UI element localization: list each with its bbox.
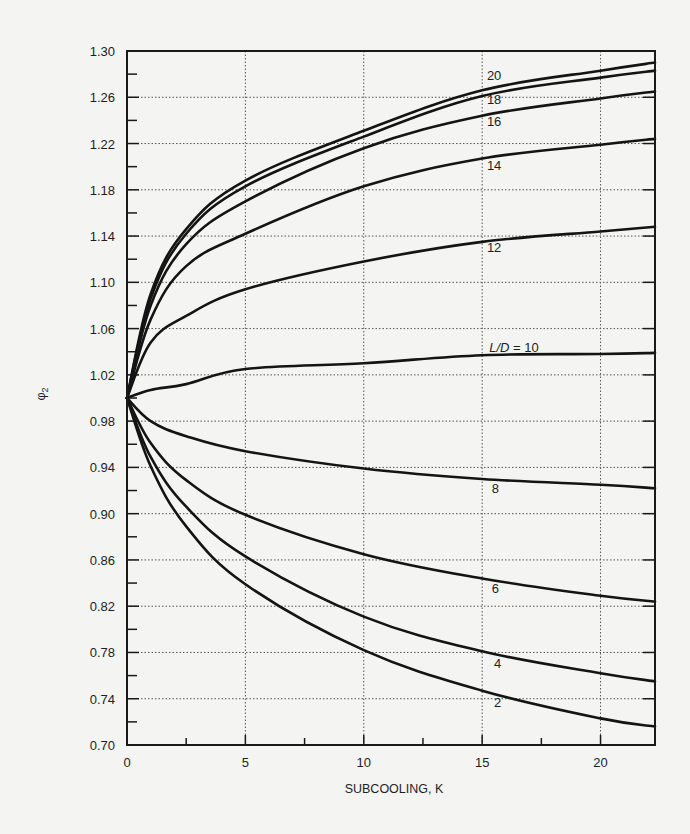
y-tick-label: 1.02 <box>90 368 115 383</box>
gridlines <box>127 51 655 745</box>
curve-ld-4 <box>127 398 655 681</box>
data-curves <box>127 63 655 727</box>
y-tick-label: 0.86 <box>90 553 115 568</box>
y-tick-label: 1.18 <box>90 183 115 198</box>
y-tick-label: 1.22 <box>90 137 115 152</box>
curve-ld-10 <box>127 353 655 398</box>
curve-label-14: 14 <box>487 158 501 173</box>
y-tick-label: 1.26 <box>90 90 115 105</box>
y-tick-label: 1.06 <box>90 322 115 337</box>
curve-labels: 2018161412L/D = 108642 <box>487 68 539 710</box>
y-tick-label: 0.70 <box>90 738 115 753</box>
curve-ld-8 <box>127 398 655 488</box>
x-tick-label: 5 <box>242 755 249 770</box>
curve-ld-20 <box>127 63 655 398</box>
curve-ld-16 <box>127 91 655 398</box>
plot-frame <box>127 51 655 745</box>
line-chart: 051015200.700.740.780.820.860.900.940.98… <box>0 0 690 834</box>
curve-label-20: 20 <box>487 68 501 83</box>
y-tick-label: 1.14 <box>90 229 115 244</box>
curve-ld-6 <box>127 398 655 602</box>
y-axis-title: φ2 <box>34 387 50 400</box>
y-tick-label: 1.30 <box>90 44 115 59</box>
curve-ld-2 <box>127 398 655 726</box>
curve-label-16: 16 <box>487 114 501 129</box>
y-tick-label: 0.74 <box>90 692 115 707</box>
x-tick-label: 0 <box>123 755 130 770</box>
y-tick-label: 0.94 <box>90 460 115 475</box>
curve-label-12: 12 <box>487 240 501 255</box>
curve-label-18: 18 <box>487 92 501 107</box>
x-axis-title: SUBCOOLING, K <box>345 782 444 796</box>
curve-label-8: 8 <box>492 481 499 496</box>
curve-label-10: L/D = 10 <box>489 340 539 355</box>
axis-ticks <box>127 51 655 745</box>
y-tick-label: 0.98 <box>90 414 115 429</box>
y-tick-label: 0.90 <box>90 507 115 522</box>
curve-label-2: 2 <box>494 695 501 710</box>
x-tick-label: 20 <box>593 755 607 770</box>
x-tick-label: 15 <box>475 755 489 770</box>
x-tick-label: 10 <box>357 755 371 770</box>
y-tick-label: 0.78 <box>90 645 115 660</box>
curve-label-6: 6 <box>492 581 499 596</box>
curve-ld-14 <box>127 139 655 398</box>
chart-container: 051015200.700.740.780.820.860.900.940.98… <box>0 0 690 834</box>
curve-label-4: 4 <box>494 656 501 671</box>
y-tick-label: 0.82 <box>90 599 115 614</box>
y-tick-label: 1.10 <box>90 275 115 290</box>
